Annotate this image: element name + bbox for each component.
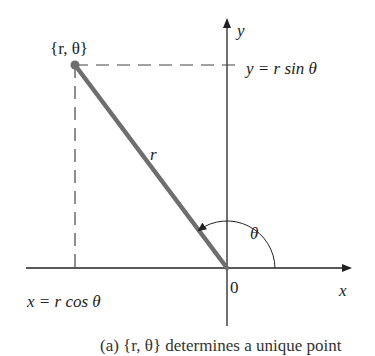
origin-label: 0	[230, 279, 239, 296]
x-projection-label: x = r cos θ	[27, 293, 101, 310]
radius-line	[75, 65, 227, 268]
figure-caption: (a) {r, θ} determines a unique point	[100, 336, 341, 356]
y-axis-label: y	[237, 22, 245, 39]
x-axis-label: x	[339, 282, 347, 299]
radius-label: r	[150, 146, 157, 163]
y-projection-label: y = r sin θ	[246, 60, 317, 77]
angle-label: θ	[250, 225, 258, 242]
point-marker	[71, 61, 80, 70]
point-label: {r, θ}	[50, 40, 88, 57]
